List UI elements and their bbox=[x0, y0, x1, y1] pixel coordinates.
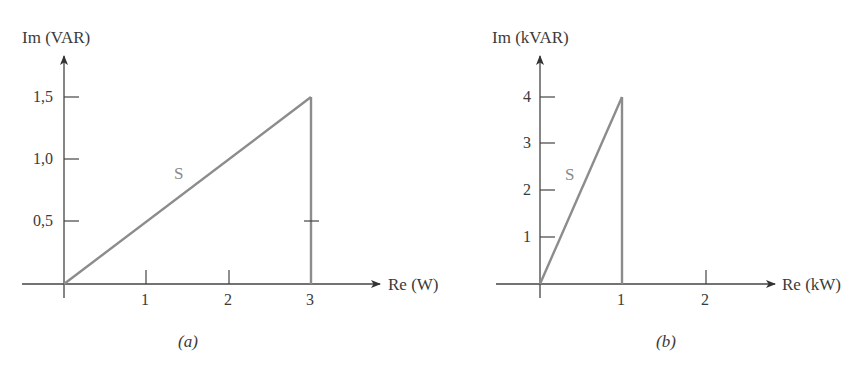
panel-a-vector-s bbox=[64, 97, 311, 284]
panel-a-x-tick-label: 2 bbox=[224, 292, 232, 308]
panel-a-y-tick-label: 1,5 bbox=[33, 89, 53, 105]
panel-a-vector-label: S bbox=[174, 165, 183, 182]
panel-a-x-axis-label: Re (W) bbox=[388, 276, 439, 293]
panel-b-vector-label: S bbox=[565, 166, 574, 183]
panel-a-y-axis-label: Im (VAR) bbox=[22, 29, 90, 46]
panel-a-x-tick-label: 1 bbox=[141, 292, 149, 308]
panel-b-y-tick-label: 4 bbox=[523, 89, 531, 105]
panel-b-y-tick-label: 1 bbox=[523, 229, 531, 245]
panel-b-x-tick-label: 1 bbox=[617, 292, 625, 308]
panel-a-y-tick-label: 1,0 bbox=[33, 151, 53, 167]
panel-b-y-tick-label: 3 bbox=[523, 135, 531, 151]
panel-b-graphics bbox=[496, 56, 775, 298]
panel-b-caption: (b) bbox=[656, 333, 676, 350]
diagram-canvas bbox=[0, 0, 866, 366]
panel-a-graphics bbox=[22, 56, 380, 298]
panel-a-caption: (a) bbox=[178, 333, 198, 350]
panel-b-x-tick-label: 2 bbox=[701, 292, 709, 308]
panel-b-y-tick-label: 2 bbox=[523, 182, 531, 198]
panel-b-y-axis-label: Im (kVAR) bbox=[492, 29, 569, 46]
panel-a-y-tick-label: 0,5 bbox=[33, 213, 53, 229]
panel-a-x-tick-label: 3 bbox=[306, 292, 314, 308]
panel-b-x-axis-label: Re (kW) bbox=[782, 276, 841, 293]
